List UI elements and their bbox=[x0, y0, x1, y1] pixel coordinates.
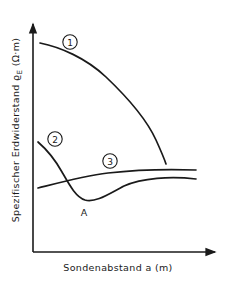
x-axis-title: Sondenabstand a (m) bbox=[0, 262, 236, 273]
figure-container: 1 2 3 A Sondenabstand a (m) Spezifischer… bbox=[0, 0, 236, 284]
y-axis-title-unit: (Ω·m) bbox=[10, 38, 21, 70]
y-axis-title-prefix: Spezifischer Erdwiderstand ϱ bbox=[10, 75, 21, 223]
plot-area: 1 2 3 A bbox=[0, 0, 236, 284]
curve-2-marker-label: 2 bbox=[52, 135, 58, 145]
curve-1-path bbox=[40, 43, 166, 164]
curve-3-marker-label: 3 bbox=[107, 157, 113, 167]
curve-1-marker-label: 1 bbox=[67, 38, 73, 48]
y-axis-title: Spezifischer Erdwiderstand ϱE (Ω·m) bbox=[10, 30, 26, 230]
y-axis-title-subscript: E bbox=[16, 70, 24, 75]
point-a-label: A bbox=[81, 207, 88, 218]
